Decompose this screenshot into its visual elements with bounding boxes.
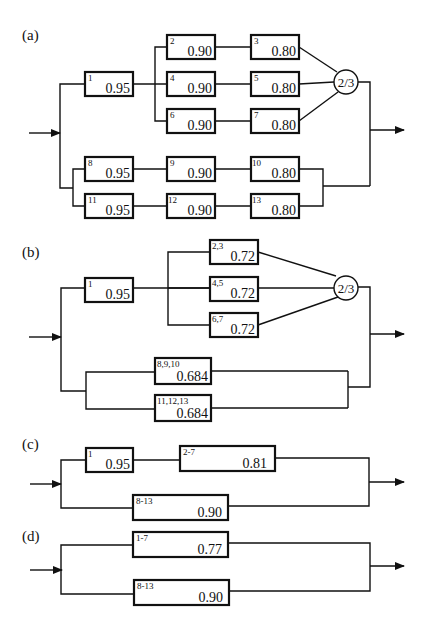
svg-text:8,9,10: 8,9,10: [157, 359, 180, 369]
svg-text:6: 6: [170, 110, 175, 120]
reliability-block-diagram: (a) 10.95 20.90 30.80 40.90 50.: [0, 0, 426, 644]
svg-text:8-13: 8-13: [137, 581, 154, 591]
svg-text:0.80: 0.80: [272, 44, 297, 59]
svg-text:0.90: 0.90: [188, 44, 213, 59]
svg-text:8: 8: [88, 158, 93, 168]
svg-text:0.95: 0.95: [106, 166, 131, 181]
svg-text:10: 10: [252, 158, 262, 168]
svg-text:0.90: 0.90: [199, 590, 224, 605]
block-2-3: 2,30.72: [210, 240, 258, 264]
svg-text:7: 7: [254, 110, 259, 120]
svg-text:0.77: 0.77: [198, 542, 223, 557]
svg-text:0.80: 0.80: [272, 81, 297, 96]
panel-c: (c) 10.95 2-70.81 8-130.90: [22, 436, 404, 520]
svg-text:0.684: 0.684: [177, 369, 209, 384]
svg-text:0.95: 0.95: [106, 203, 131, 218]
svg-text:0.72: 0.72: [231, 249, 256, 264]
svg-text:0.72: 0.72: [231, 286, 256, 301]
block-4-5: 4,50.72: [210, 277, 258, 301]
svg-text:0.72: 0.72: [231, 322, 256, 337]
panel-label: (a): [22, 27, 39, 44]
block-2: 20.90: [167, 35, 215, 59]
svg-text:9: 9: [170, 158, 175, 168]
block-5: 50.80: [251, 72, 299, 96]
svg-text:2/3: 2/3: [338, 75, 355, 90]
svg-text:4: 4: [170, 73, 175, 83]
voter-2-of-3: 2/3: [334, 70, 358, 94]
svg-text:0.90: 0.90: [188, 118, 213, 133]
svg-text:2/3: 2/3: [338, 281, 355, 296]
svg-text:3: 3: [254, 36, 259, 46]
block-1: 10.95: [85, 278, 133, 302]
svg-text:1: 1: [88, 73, 93, 83]
svg-text:0.95: 0.95: [106, 287, 131, 302]
block-4: 40.90: [167, 72, 215, 96]
svg-text:0.90: 0.90: [188, 81, 213, 96]
svg-text:0.90: 0.90: [188, 166, 213, 181]
voter-2-of-3: 2/3: [334, 276, 358, 300]
block-10: 100.80: [251, 157, 299, 181]
svg-text:1: 1: [88, 449, 93, 459]
svg-text:1-7: 1-7: [136, 533, 148, 543]
block-11-12-13: 11,12,130.684: [155, 395, 211, 421]
svg-text:0.684: 0.684: [177, 406, 209, 421]
panel-label: (c): [22, 436, 39, 453]
svg-text:0.80: 0.80: [272, 203, 297, 218]
svg-text:0.81: 0.81: [243, 456, 268, 471]
svg-text:2-7: 2-7: [183, 447, 195, 457]
panel-label: (b): [22, 244, 40, 261]
svg-text:4,5: 4,5: [212, 278, 224, 288]
svg-text:0.95: 0.95: [106, 81, 131, 96]
svg-text:12: 12: [168, 195, 177, 205]
svg-text:8-13: 8-13: [136, 496, 153, 506]
block-1-7: 1-70.77: [133, 532, 228, 557]
block-7: 70.80: [251, 109, 299, 133]
block-11: 110.95: [85, 194, 133, 218]
svg-text:11,12,13: 11,12,13: [157, 396, 189, 406]
block-2-7: 2-70.81: [180, 446, 275, 471]
block-6: 60.90: [167, 109, 215, 133]
block-1: 10.95: [86, 448, 133, 472]
panel-label: (d): [22, 528, 40, 545]
block-8: 80.95: [85, 157, 133, 181]
svg-text:5: 5: [254, 73, 259, 83]
block-3: 30.80: [251, 35, 299, 59]
svg-text:0.80: 0.80: [272, 118, 297, 133]
svg-text:1: 1: [88, 279, 93, 289]
panel-b: (b) 10.95 2,30.72 4,50.72 6,70.72 8,9,10…: [22, 240, 404, 421]
block-6-7: 6,70.72: [210, 313, 258, 337]
svg-text:0.90: 0.90: [198, 505, 223, 520]
panel-a: (a) 10.95 20.90 30.80 40.90 50.: [22, 27, 404, 218]
block-8-13: 8-130.90: [133, 495, 228, 520]
block-8-9-10: 8,9,100.684: [155, 358, 211, 384]
block-8-13: 8-130.90: [134, 580, 229, 605]
block-9: 90.90: [167, 157, 215, 181]
connector: [73, 169, 85, 206]
svg-text:0.95: 0.95: [106, 457, 131, 472]
panel-d: (d) 1-70.77 8-130.90: [22, 528, 404, 605]
svg-text:11: 11: [88, 195, 97, 205]
block-1: 10.95: [85, 72, 133, 96]
svg-text:2,3: 2,3: [212, 241, 224, 251]
svg-text:2: 2: [170, 36, 175, 46]
block-13: 130.80: [251, 194, 299, 218]
block-12: 120.90: [167, 194, 215, 218]
svg-text:0.90: 0.90: [188, 203, 213, 218]
svg-text:0.80: 0.80: [272, 166, 297, 181]
svg-text:6,7: 6,7: [212, 314, 224, 324]
svg-text:13: 13: [252, 195, 262, 205]
